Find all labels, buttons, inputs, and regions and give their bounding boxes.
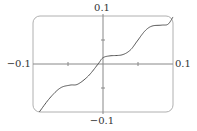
y-min-label: −0.1 [90,115,114,126]
y-max-label: 0.1 [94,2,110,13]
chart: 0.1 −0.1 −0.1 0.1 [0,0,197,131]
x-min-label: −0.1 [7,58,31,69]
x-max-label: 0.1 [175,58,191,69]
